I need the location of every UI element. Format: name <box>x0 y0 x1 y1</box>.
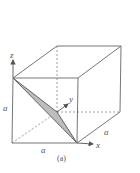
edge-label-right: a <box>104 127 109 137</box>
y-axis <box>57 104 68 112</box>
edge-label-bottom: a <box>41 145 46 155</box>
y-axis-label: y <box>68 94 73 104</box>
x-axis <box>77 143 93 144</box>
x-axis-label: x <box>95 140 100 150</box>
axes <box>13 60 93 144</box>
figure-caption: (a) <box>57 154 66 163</box>
cube-drawing: z y x a a a (a) <box>0 0 140 173</box>
z-axis-label: z <box>9 50 14 60</box>
cube-diagram: z y x a a a (a) <box>0 0 140 173</box>
edge-label-left: a <box>3 103 8 113</box>
shaded-plane <box>13 78 77 143</box>
